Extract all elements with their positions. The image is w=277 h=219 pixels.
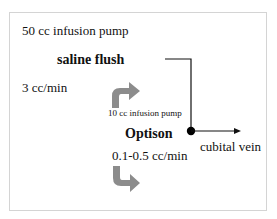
curved-arrow-down-right-icon bbox=[113, 166, 140, 192]
optison-label: Optison bbox=[125, 127, 172, 141]
saline-pump-label: 50 cc infusion pump bbox=[22, 24, 129, 37]
outlet-arrowhead-icon bbox=[234, 128, 241, 134]
saline-flush-label: saline flush bbox=[57, 53, 124, 67]
cubital-vein-label: cubital vein bbox=[200, 140, 261, 153]
saline-line bbox=[165, 59, 191, 130]
curved-arrow-up-right-icon bbox=[112, 82, 140, 108]
saline-rate-label: 3 cc/min bbox=[22, 81, 67, 94]
optison-pump-label: 10 cc infusion pump bbox=[108, 109, 182, 118]
optison-rate-label: 0.1-0.5 cc/min bbox=[112, 149, 187, 162]
